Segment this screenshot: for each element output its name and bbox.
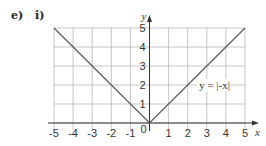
x-tick-label: 1 bbox=[166, 127, 172, 139]
x-tick-label: -1 bbox=[126, 127, 136, 139]
x-tick-label: -4 bbox=[68, 127, 78, 139]
y-tick-label: 5 bbox=[139, 22, 145, 34]
x-axis-arrow-icon bbox=[252, 121, 259, 126]
x-tick-label: 5 bbox=[242, 127, 248, 139]
y-axis-arrow-icon bbox=[147, 15, 152, 22]
x-tick-label: -5 bbox=[49, 127, 59, 139]
y-tick-label: 3 bbox=[139, 60, 145, 72]
graph-y-equals-abs-neg-x: xy-5-4-3-2-112345012345 y = |-x| bbox=[0, 0, 266, 146]
x-tick-label: 2 bbox=[185, 127, 191, 139]
y-tick-label: 4 bbox=[139, 41, 145, 53]
function-label-text: y = |-x| bbox=[199, 79, 230, 91]
y-tick-label: 2 bbox=[139, 79, 145, 91]
x-tick-label: 4 bbox=[223, 127, 229, 139]
x-tick-label: -3 bbox=[87, 127, 97, 139]
x-axis-label: x bbox=[254, 126, 260, 138]
x-tick-label: 3 bbox=[204, 127, 210, 139]
y-tick-label: 1 bbox=[139, 98, 145, 110]
x-tick-label: -2 bbox=[106, 127, 116, 139]
origin-label: 0 bbox=[140, 123, 146, 135]
axes bbox=[48, 15, 259, 131]
y-axis-label: y bbox=[141, 10, 147, 22]
tick-labels: xy-5-4-3-2-112345012345 bbox=[49, 10, 260, 139]
function-label: y = |-x| bbox=[197, 79, 230, 92]
